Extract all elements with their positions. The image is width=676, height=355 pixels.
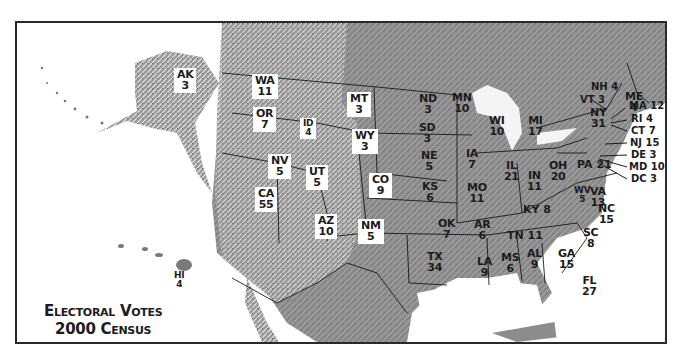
state-label-ar: AR6	[474, 219, 490, 241]
state-votes: 3	[419, 104, 437, 115]
state-label-ks: KS6	[422, 181, 438, 203]
state-votes: 4	[174, 280, 184, 289]
callout-ct: CT 7	[631, 125, 656, 136]
state-votes: 3	[355, 141, 375, 152]
state-votes: 11	[467, 193, 487, 204]
state-label-wy: WY3	[352, 129, 378, 154]
callout-nj: NJ 15	[630, 137, 660, 148]
state-label-nv: NV5	[268, 154, 291, 179]
callout-ri: RI 4	[631, 113, 653, 124]
state-votes: 21	[504, 171, 519, 182]
state-label-ny: NY31	[590, 107, 607, 129]
state-votes: 34	[427, 262, 442, 273]
state-votes: 17	[528, 126, 543, 137]
state-votes: 31	[590, 118, 607, 129]
state-label-mi: MI17	[528, 115, 543, 137]
state-votes: 6	[501, 263, 519, 274]
state-votes: 7	[438, 229, 455, 240]
state-label-az: AZ10	[315, 214, 337, 239]
state-votes: 7	[256, 119, 273, 130]
state-votes: 6	[474, 230, 490, 241]
state-votes: 13	[590, 197, 606, 208]
state-label-nh: NH 4	[591, 81, 618, 92]
state-label-or: OR7	[253, 107, 276, 132]
state-label-nd: ND3	[419, 93, 437, 115]
state-votes: 15	[598, 214, 615, 225]
state-votes: 4	[303, 128, 313, 137]
state-votes: 9	[372, 185, 389, 196]
state-label-id: ID4	[300, 118, 316, 139]
state-label-tx: TX34	[427, 251, 442, 273]
state-votes: 5	[309, 177, 325, 188]
state-label-ak: AK 3	[174, 68, 196, 93]
map-title: Electoral Votes 2000 Census	[44, 302, 162, 338]
map-title-line2: 2000 Census	[44, 320, 162, 338]
state-label-ky: KY 8	[523, 203, 551, 216]
state-label-hi: HI 4	[174, 271, 184, 289]
alaska-landmass	[97, 51, 219, 193]
state-votes: 8	[583, 238, 598, 249]
state-votes: 10	[452, 103, 472, 114]
state-votes: 11	[255, 86, 275, 97]
state-label-oh: OH20	[549, 160, 567, 182]
state-votes: 55	[258, 199, 274, 210]
state-label-sc: SC8	[583, 227, 598, 249]
state-votes: 9	[477, 267, 492, 278]
state-votes: 5	[271, 166, 288, 177]
state-votes: 9	[527, 259, 542, 270]
state-label-va: VA13	[590, 186, 606, 208]
state-label-co: CO9	[369, 173, 392, 198]
state-votes: 5	[361, 231, 381, 242]
state-label-il: IL21	[504, 160, 519, 182]
callout-de: DE 3	[631, 149, 657, 160]
state-votes: 5	[574, 195, 590, 204]
state-votes: 3	[350, 104, 368, 115]
state-votes: 5	[421, 161, 437, 172]
state-label-ok: OK7	[438, 218, 455, 240]
callout-md: MD 10	[629, 161, 665, 172]
map-frame: AK 3 HI 4 WA11 OR7 ID4 MT3 WY3 NV5 UT5 C…	[15, 21, 667, 344]
state-label-wi: WI10	[489, 115, 505, 137]
state-label-nm: NM5	[358, 219, 384, 244]
state-label-ut: UT5	[306, 165, 328, 190]
state-label-mt: MT3	[347, 92, 371, 117]
state-label-ia: IA7	[466, 148, 478, 170]
state-votes: 15	[558, 259, 575, 270]
state-votes: 7	[466, 159, 478, 170]
state-label-fl: FL27	[582, 275, 597, 297]
state-label-ne: NE5	[421, 150, 437, 172]
state-label-ga: GA15	[558, 248, 575, 270]
state-votes: 6	[422, 192, 438, 203]
state-votes: 10	[489, 126, 505, 137]
state-label-in: IN11	[527, 170, 542, 192]
state-label-al: AL9	[527, 248, 542, 270]
state-label-tn: TN 11	[507, 229, 543, 242]
state-label-sd: SD3	[419, 122, 435, 144]
state-label-ms: MS6	[501, 252, 519, 274]
map-title-line1: Electoral Votes	[44, 302, 162, 320]
state-label-pa: PA 21	[577, 158, 612, 171]
state-votes: 3	[419, 133, 435, 144]
callout-ma: MA 12	[629, 100, 664, 111]
state-votes: 10	[318, 226, 334, 237]
callout-dc: DC 3	[631, 173, 657, 184]
state-label-mo: MO11	[467, 182, 487, 204]
state-label-wa: WA11	[252, 74, 278, 99]
state-label-la: LA9	[477, 256, 492, 278]
state-votes: 20	[549, 171, 567, 182]
state-label-vt: VT 3	[580, 94, 605, 105]
state-votes: 3	[177, 80, 193, 91]
state-label-mn: MN10	[452, 92, 472, 114]
state-votes: 11	[527, 181, 542, 192]
state-votes: 27	[582, 286, 597, 297]
relief-map	[17, 23, 665, 342]
state-label-wv: WV5	[574, 186, 590, 204]
state-label-ca: CA55	[255, 187, 277, 212]
